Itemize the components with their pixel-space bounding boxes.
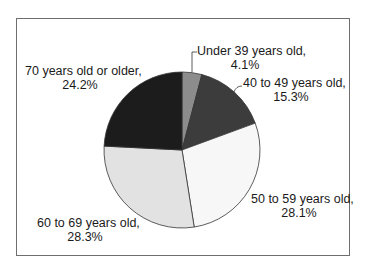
label-under-39-value: 4.1% xyxy=(197,58,293,72)
label-70-plus: 70 years old or older, 24.2% xyxy=(25,64,135,92)
label-50-59-value: 28.1% xyxy=(251,206,347,220)
label-under-39: Under 39 years old, 4.1% xyxy=(197,44,293,72)
label-50-59: 50 to 59 years old, 28.1% xyxy=(251,192,347,220)
label-60-69: 60 to 69 years old, 28.3% xyxy=(37,216,133,244)
label-40-49-name: 40 to 49 years old, xyxy=(243,76,339,90)
leader-line-40-49 xyxy=(234,86,242,92)
label-40-49: 40 to 49 years old, 15.3% xyxy=(243,76,339,104)
label-70-plus-name: 70 years old or older, xyxy=(25,64,135,78)
label-40-49-value: 15.3% xyxy=(243,90,339,104)
label-50-59-name: 50 to 59 years old, xyxy=(251,192,347,206)
label-under-39-name: Under 39 years old, xyxy=(197,44,293,58)
label-70-plus-value: 24.2% xyxy=(25,78,135,92)
label-60-69-name: 60 to 69 years old, xyxy=(37,216,133,230)
label-60-69-value: 28.3% xyxy=(37,230,133,244)
